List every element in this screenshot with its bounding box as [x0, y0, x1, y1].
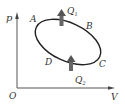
cycle-ellipse	[28, 10, 108, 74]
point-b-label: B	[85, 21, 93, 31]
q2-label: Q2	[75, 75, 86, 86]
point-d-label: D	[44, 57, 52, 67]
q1-heat-arrow-icon	[57, 9, 66, 26]
origin-label: O	[9, 91, 17, 101]
point-a-label: A	[29, 14, 37, 24]
q1-subscript: 1	[74, 11, 77, 17]
x-axis-arrow-icon	[108, 86, 115, 90]
y-axis-arrow-icon	[15, 12, 19, 19]
point-c-label: C	[99, 59, 106, 69]
y-axis-label: p	[6, 12, 13, 23]
q2-subscript: 2	[81, 80, 85, 86]
q1-label: Q1	[67, 6, 78, 17]
pv-diagram: p V O A B C D Q1 Q2	[0, 0, 125, 111]
x-axis-label: V	[111, 92, 119, 102]
